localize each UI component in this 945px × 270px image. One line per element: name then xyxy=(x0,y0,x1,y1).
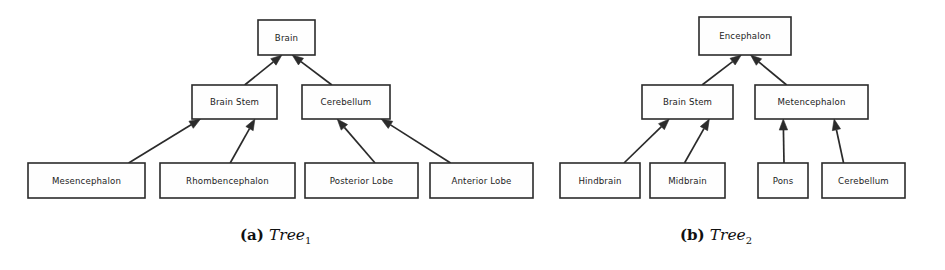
node-label-anterior-lobe: Anterior Lobe xyxy=(451,176,511,186)
node-label-cerebellum-2: Cerebellum xyxy=(838,176,889,186)
figure-root: BrainBrain StemCerebellumMesencephalonRh… xyxy=(0,0,945,270)
node-label-metencephalon: Metencephalon xyxy=(777,97,845,107)
edge-anterior-lobe-to-cerebellum xyxy=(381,119,450,163)
node-label-midbrain: Midbrain xyxy=(668,176,707,186)
edge-posterior-lobe-to-cerebellum xyxy=(337,119,375,163)
node-label-brain-stem: Brain Stem xyxy=(210,97,259,107)
caption-name-b: Tree xyxy=(710,226,746,244)
node-pons[interactable]: Pons xyxy=(758,163,808,198)
node-label-hindbrain: Hindbrain xyxy=(578,176,621,186)
caption-subscript-a: 1 xyxy=(305,235,311,246)
node-midbrain[interactable]: Midbrain xyxy=(650,163,725,198)
node-brain[interactable]: Brain xyxy=(258,20,315,55)
node-label-mesencephalon: Mesencephalon xyxy=(52,176,121,186)
node-label-brain: Brain xyxy=(275,33,298,43)
edge-metencephalon-to-encephalon xyxy=(751,55,787,85)
edge-rhombencephalon-to-brain-stem xyxy=(230,119,255,163)
arrowhead-icon xyxy=(246,119,255,131)
caption-tree-2: (b)Tree2 xyxy=(680,226,752,246)
node-label-encephalon: Encephalon xyxy=(719,31,771,41)
node-encephalon[interactable]: Encephalon xyxy=(699,17,791,55)
edge-brain-stem-to-brain xyxy=(245,55,282,85)
edge-cerebellum-2-to-metencephalon xyxy=(832,119,843,163)
node-rhombencephalon[interactable]: Rhombencephalon xyxy=(160,163,295,198)
arrowhead-icon xyxy=(292,55,303,65)
edge-brain-stem-2-to-encephalon xyxy=(702,55,741,85)
arrowhead-icon xyxy=(832,119,840,131)
arrowhead-icon xyxy=(381,119,393,128)
edge-pons-to-metencephalon xyxy=(779,119,787,163)
edge-midbrain-to-brain-stem-2 xyxy=(685,119,710,163)
node-brain-stem[interactable]: Brain Stem xyxy=(192,85,277,119)
caption-subscript-b: 2 xyxy=(746,235,752,246)
node-cerebellum-2[interactable]: Cerebellum xyxy=(822,163,905,198)
caption-tag-b: (b) xyxy=(680,226,705,244)
caption-tag-a: (a) xyxy=(240,226,264,244)
node-anterior-lobe[interactable]: Anterior Lobe xyxy=(430,163,533,198)
node-posterior-lobe[interactable]: Posterior Lobe xyxy=(305,163,418,198)
arrowhead-icon xyxy=(189,119,201,128)
node-label-pons: Pons xyxy=(773,176,794,186)
nodes-layer: BrainBrain StemCerebellumMesencephalonRh… xyxy=(28,17,905,198)
caption-tree-1: (a)Tree1 xyxy=(240,226,311,246)
arrowhead-icon xyxy=(700,119,709,131)
edge-hindbrain-to-brain-stem-2 xyxy=(624,119,669,163)
node-cerebellum[interactable]: Cerebellum xyxy=(302,85,390,119)
node-brain-stem-2[interactable]: Brain Stem xyxy=(642,85,733,119)
edge-cerebellum-to-brain xyxy=(292,55,332,85)
caption-name-a: Tree xyxy=(269,226,305,244)
node-mesencephalon[interactable]: Mesencephalon xyxy=(28,163,145,198)
arrowhead-icon xyxy=(779,119,787,130)
node-hindbrain[interactable]: Hindbrain xyxy=(560,163,640,198)
tree-diagram-canvas: BrainBrain StemCerebellumMesencephalonRh… xyxy=(0,0,945,270)
edge-mesencephalon-to-brain-stem xyxy=(129,119,201,163)
arrowhead-icon xyxy=(730,55,741,65)
node-label-brain-stem-2: Brain Stem xyxy=(663,97,712,107)
node-label-rhombencephalon: Rhombencephalon xyxy=(186,176,269,186)
node-metencephalon[interactable]: Metencephalon xyxy=(755,85,868,119)
node-label-posterior-lobe: Posterior Lobe xyxy=(330,176,393,186)
node-label-cerebellum: Cerebellum xyxy=(321,97,372,107)
